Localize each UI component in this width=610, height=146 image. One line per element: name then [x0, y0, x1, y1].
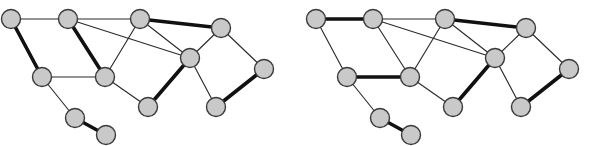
graph-node-n9	[444, 98, 463, 117]
graph-node-n6	[560, 60, 579, 79]
graph-edge-n2-n5	[68, 19, 190, 58]
left-graph	[2, 10, 274, 145]
node-layer	[2, 10, 274, 145]
graph-node-n10	[512, 98, 531, 117]
graph-edge-n3-n4	[445, 19, 526, 28]
graph-node-n8	[401, 68, 420, 87]
graph-node-n2	[364, 10, 383, 29]
graph-node-n3	[131, 10, 150, 29]
graph-node-n2	[59, 10, 78, 29]
graph-node-n11	[66, 109, 85, 128]
graph-node-n11	[371, 109, 390, 128]
graph-figure	[0, 0, 610, 146]
graph-node-n3	[436, 10, 455, 29]
graph-node-n12	[97, 126, 116, 145]
graph-node-n1	[307, 10, 326, 29]
graph-edge-n2-n8	[373, 19, 410, 77]
graph-node-n6	[255, 60, 274, 79]
graph-node-n12	[402, 126, 421, 145]
graph-node-n8	[96, 68, 115, 87]
right-graph	[307, 10, 579, 145]
node-layer	[307, 10, 579, 145]
graph-node-n5	[486, 49, 505, 68]
graph-edge-n3-n4	[140, 19, 221, 28]
graph-node-n1	[2, 10, 21, 29]
graph-node-n4	[517, 19, 536, 38]
graph-node-n9	[139, 98, 158, 117]
graph-node-n5	[181, 49, 200, 68]
graph-node-n4	[212, 19, 231, 38]
graph-edge-n2-n5	[373, 19, 495, 58]
graph-canvas	[0, 0, 610, 146]
graph-node-n10	[207, 98, 226, 117]
graph-node-n7	[33, 68, 52, 87]
graph-node-n7	[338, 68, 357, 87]
graph-edge-n2-n8	[68, 19, 105, 77]
